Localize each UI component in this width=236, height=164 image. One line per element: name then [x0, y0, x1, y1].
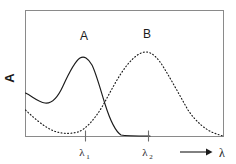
tick-label-lambda-2: λ 2: [142, 146, 153, 161]
tick-label-lambda-2-sub: 2: [149, 153, 153, 161]
tick-label-lambda-2-base: λ: [142, 146, 148, 158]
absorption-spectra-figure: A λ 1 λ 2 λ A B: [0, 0, 236, 164]
tick-label-lambda-1: λ 1: [79, 146, 90, 161]
curve-label-b: B: [143, 27, 151, 41]
x-axis-arrow-icon: [180, 149, 213, 156]
plot-canvas: A λ 1 λ 2 λ A B: [0, 0, 236, 164]
tick-label-lambda-1-sub: 1: [86, 153, 90, 161]
y-axis-label: A: [2, 73, 17, 83]
tick-label-lambda-1-base: λ: [79, 146, 85, 158]
x-axis-label: λ: [219, 146, 225, 160]
curve-label-a: A: [80, 29, 88, 43]
